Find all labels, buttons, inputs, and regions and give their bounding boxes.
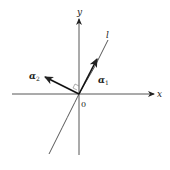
line-l	[49, 40, 108, 154]
x-axis-label: x	[157, 89, 162, 99]
alpha1-label: α1	[98, 75, 109, 86]
origin-label: 0	[81, 100, 86, 109]
alpha2-label: α2	[29, 71, 40, 82]
diagram-canvas: y x 0 l α1 α2	[0, 0, 170, 170]
line-l-label: l	[106, 30, 109, 40]
right-angle-marker	[73, 84, 79, 90]
y-axis-label: y	[76, 7, 83, 17]
vector-alpha2	[45, 77, 79, 94]
vector-alpha1	[79, 59, 97, 94]
